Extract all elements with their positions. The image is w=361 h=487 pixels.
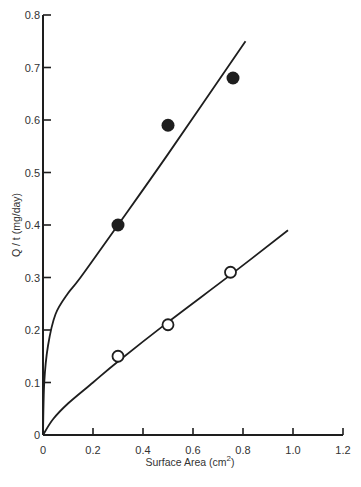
filled-circle-marker bbox=[227, 72, 240, 85]
open-circle-marker bbox=[225, 267, 236, 278]
x-tick-label: 0.6 bbox=[185, 444, 200, 456]
filled-circle-marker bbox=[162, 119, 175, 132]
fit-curve-filled bbox=[43, 41, 246, 435]
fit-curves bbox=[43, 41, 288, 435]
x-tick-label: 0.8 bbox=[235, 444, 250, 456]
x-axis-title-base: Surface Area (cm bbox=[145, 456, 226, 468]
y-tick-label: 0 bbox=[34, 429, 40, 441]
open-circle-marker bbox=[163, 319, 174, 330]
y-tick-label: 0.8 bbox=[25, 9, 40, 21]
y-axis: 00.10.20.30.40.50.60.70.8 bbox=[25, 9, 51, 441]
x-tick-label: 1.0 bbox=[285, 444, 300, 456]
y-axis-title: Q / t (mg/day) bbox=[10, 193, 22, 257]
y-tick-label: 0.6 bbox=[25, 114, 40, 126]
x-tick-label: 0.2 bbox=[85, 444, 100, 456]
filled-circle-marker bbox=[112, 219, 125, 232]
y-tick-label: 0.5 bbox=[25, 167, 40, 179]
chart: 00.20.40.60.81.01.2 00.10.20.30.40.50.60… bbox=[0, 0, 361, 487]
y-tick-label: 0.1 bbox=[25, 377, 40, 389]
fit-curve-open bbox=[43, 230, 288, 435]
x-axis: 00.20.40.60.81.01.2 bbox=[40, 428, 351, 456]
open-circle-marker bbox=[113, 351, 124, 362]
y-tick-label: 0.4 bbox=[25, 219, 40, 231]
x-tick-label: 0 bbox=[40, 444, 46, 456]
x-tick-label: 1.2 bbox=[335, 444, 350, 456]
x-tick-label: 0.4 bbox=[135, 444, 150, 456]
x-axis-title: Surface Area (cm2) bbox=[145, 454, 234, 468]
y-tick-label: 0.7 bbox=[25, 62, 40, 74]
y-tick-label: 0.3 bbox=[25, 272, 40, 284]
data-markers bbox=[112, 72, 240, 362]
y-tick-label: 0.2 bbox=[25, 324, 40, 336]
x-axis-title-close: ) bbox=[231, 456, 235, 468]
